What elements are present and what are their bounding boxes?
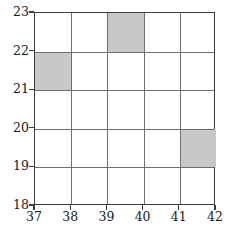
gridline-horizontal: [35, 52, 214, 53]
gridline-vertical: [180, 13, 181, 204]
figure: 232221201918 373839404142: [0, 0, 234, 241]
x-axis-tick-label: 38: [55, 211, 85, 224]
grid-line-layer: [35, 13, 214, 204]
plot-area: [34, 12, 215, 205]
gridline-vertical: [107, 13, 108, 204]
x-axis-tick-label: 41: [164, 211, 194, 224]
y-axis-tick-label: 22: [3, 45, 29, 58]
y-axis-tick-label: 19: [3, 160, 29, 173]
x-axis-tick-label: 42: [200, 211, 230, 224]
gridline-horizontal: [35, 129, 214, 130]
gridline-horizontal: [35, 90, 214, 91]
y-axis-tick: [29, 11, 34, 12]
y-axis-tick-label: 21: [3, 83, 29, 96]
gridline-vertical: [71, 13, 72, 204]
x-axis-tick-label: 37: [19, 211, 49, 224]
gridline-vertical: [144, 13, 145, 204]
y-axis-tick: [29, 166, 34, 167]
y-axis-tick-label: 20: [3, 122, 29, 135]
y-axis-tick: [29, 127, 34, 128]
x-axis-tick-label: 39: [91, 211, 121, 224]
clipped-caption: [24, 0, 204, 2]
gridline-horizontal: [35, 167, 214, 168]
y-axis-tick-label: 23: [3, 6, 29, 19]
x-axis-tick-label: 40: [128, 211, 158, 224]
y-axis-tick: [29, 50, 34, 51]
y-axis-tick: [29, 89, 34, 90]
